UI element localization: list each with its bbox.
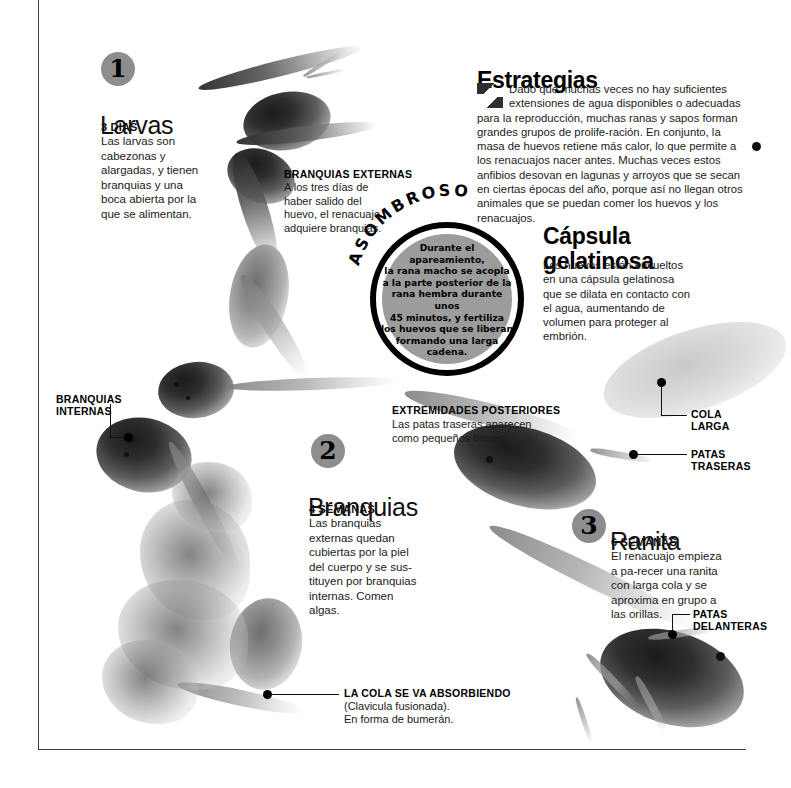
callout-title-cola-absorbiendo: LA COLA SE VA ABSORBIENDO	[344, 687, 511, 700]
stage-subtitle-branquias: 4 SEMANAS	[309, 503, 375, 515]
leader-branquias-internas-vertical	[110, 404, 111, 438]
callout-title-patas-delanteras-line1: PATAS	[693, 608, 728, 621]
asombroso-line-9: cadena.	[378, 346, 516, 358]
callout-title-cola-larga-line2: LARGA	[691, 420, 730, 433]
step-badge-3: 3	[572, 509, 606, 543]
algae-cluster-d	[102, 640, 198, 724]
asombroso-line-4: a la parte posterior de la	[378, 277, 516, 289]
larva-tail-top	[197, 40, 366, 97]
larva-tail-mid	[236, 117, 379, 149]
frame-bottom-border	[38, 749, 746, 750]
tadpole-upper-head	[155, 358, 236, 422]
tadpole-eye-c	[124, 452, 129, 457]
callout-title-cola-larga-line1: COLA	[691, 408, 722, 421]
algae-cluster-a	[140, 500, 250, 620]
leader-cola-larga-horizontal	[661, 415, 687, 416]
asombroso-line-1: Durante el	[378, 242, 516, 254]
leader-patas-delanteras-horizontal	[672, 614, 690, 615]
larva-body-lower	[221, 240, 296, 352]
step-badge-2: 2	[311, 434, 345, 468]
tadpole-upper-tail	[225, 375, 400, 393]
leader-cola-absorbiendo-horizontal	[271, 694, 339, 695]
larva-filament-a	[302, 50, 343, 78]
callout-title-branquias-internas-line2: INTERNAS	[56, 405, 112, 418]
section-body-capsula-gelatinosa: Los huevos están envueltos en una cápsul…	[543, 258, 693, 344]
asombroso-line-7: los huevos que se liberan	[378, 323, 516, 335]
stage-body-branquias: Las branquias externas quedan cubiertas …	[309, 516, 417, 618]
tadpole-lower-head	[89, 409, 198, 501]
froglet-foot	[574, 697, 594, 744]
larva-head-top	[239, 85, 336, 157]
tadpole-eye-b	[186, 396, 190, 400]
froglet-hindleg-b	[633, 675, 669, 733]
asombroso-text: Durante el apareamiento, la rana macho s…	[378, 242, 516, 358]
algae-cluster-c	[172, 462, 252, 532]
callout-body-cola-absorbiendo-line2: En forma de bumerán.	[344, 713, 544, 727]
asombroso-line-3: la rana macho se acopla	[378, 265, 516, 277]
tadpole-small-body	[224, 593, 308, 694]
callout-title-patas-delanteras-line2: DELANTERAS	[693, 620, 767, 633]
leader-dot-branquias-internas	[124, 433, 133, 442]
froglet-hindleg-a	[584, 651, 640, 708]
tadpole-lower-tail	[163, 438, 248, 578]
asombroso-line-8: formando una larga	[378, 335, 516, 347]
decorative-block-icon	[477, 83, 503, 108]
stage-body-larvas: Las larvas son cabezonas y alargadas, y …	[101, 134, 201, 221]
leader-patas-traseras-horizontal	[637, 454, 687, 455]
stage-subtitle-ranita: 6 SEMANAS	[611, 536, 677, 548]
callout-title-branquias-internas-line1: BRANQUIAS	[56, 393, 122, 406]
leader-cola-larga-vertical	[661, 386, 662, 416]
callout-title-branquias-externas: BRANQUIAS EXTERNAS	[284, 168, 412, 181]
frame-left-border	[38, 0, 39, 750]
midtadpole-hindlimb	[590, 446, 654, 464]
callout-body-cola-absorbiendo-line1: (Clavicula fusionada).	[344, 700, 544, 714]
callout-title-patas-traseras-line2: TRASERAS	[691, 460, 751, 473]
algae-cluster-b	[118, 580, 248, 690]
tadpole-small-tail	[176, 677, 306, 720]
callout-title-patas-traseras-line1: PATAS	[691, 448, 726, 461]
callout-body-extremidades-posteriores: Las patas traseras aparecen como pequeño…	[392, 418, 544, 445]
larva-body-long	[224, 149, 285, 269]
asombroso-line-5: rana hembra durante unos	[378, 288, 516, 311]
callout-title-extremidades-posteriores: EXTREMIDADES POSTERIORES	[392, 404, 560, 417]
asombroso-callout: ASOMBROSO Durante el apareamiento, la ra…	[370, 222, 518, 370]
step-badge-1: 1	[101, 52, 135, 86]
tadpole-eye-a	[174, 382, 179, 387]
stage-subtitle-larvas: 3 DÍAS	[101, 121, 138, 133]
froglet-eye	[716, 652, 725, 661]
edge-marker-dot	[752, 142, 761, 151]
larva-tail-lower	[234, 270, 315, 382]
asombroso-line-2: apareamiento,	[378, 254, 516, 266]
midtadpole-eye	[486, 456, 493, 463]
asombroso-line-6: 45 minutos, y fertiliza	[378, 312, 516, 324]
larva-filament-b	[306, 68, 346, 79]
leader-patas-delanteras-vertical	[672, 614, 673, 632]
